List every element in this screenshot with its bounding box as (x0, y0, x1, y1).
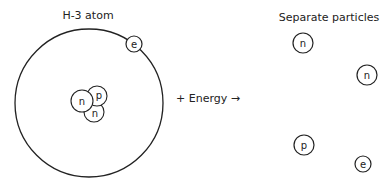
particle-neutron-2: n (357, 65, 377, 85)
svg-text:p: p (301, 140, 307, 151)
energy-label: + Energy → (176, 92, 240, 105)
svg-text:n: n (300, 38, 306, 49)
svg-text:e: e (360, 159, 366, 170)
svg-text:n: n (79, 96, 85, 107)
products-title: Separate particles (279, 11, 380, 24)
particle-neutron-1: n (293, 33, 313, 53)
particle-proton: p (294, 135, 314, 155)
nucleus: n p n (71, 86, 107, 122)
atom-title: H-3 atom (62, 9, 113, 22)
particle-electron: e (355, 156, 371, 172)
svg-text:n: n (92, 108, 98, 119)
svg-text:n: n (364, 70, 370, 81)
svg-text:e: e (131, 39, 137, 50)
svg-text:p: p (96, 90, 102, 101)
electron-in-orbit: e (126, 36, 142, 52)
h3-diagram: H-3 atom e n p n + Energy → Separate par… (0, 0, 388, 189)
